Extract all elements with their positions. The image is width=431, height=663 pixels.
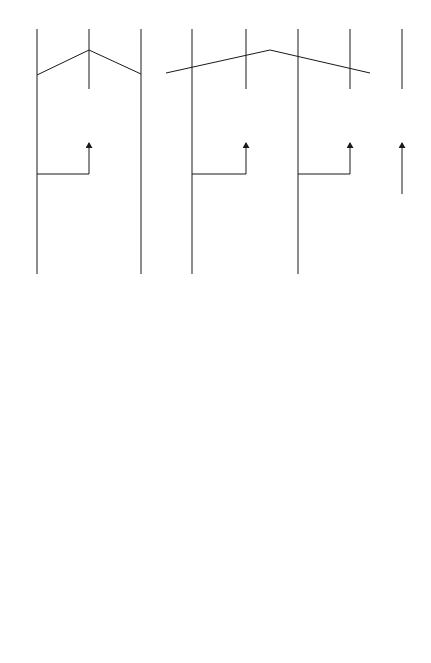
diagram-wiring	[0, 0, 431, 663]
